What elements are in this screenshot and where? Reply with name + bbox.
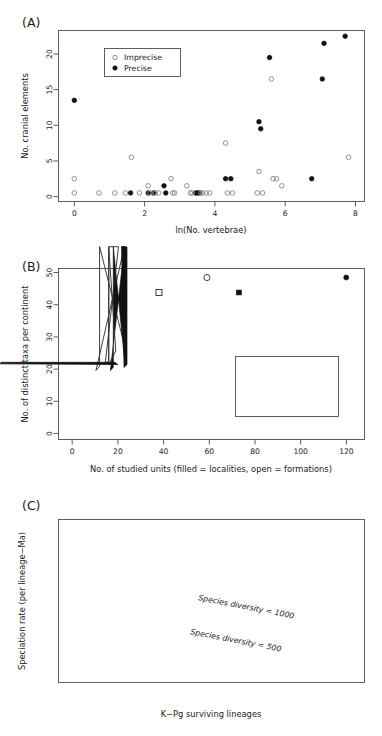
panel-b-xtick-120: 120 bbox=[339, 447, 354, 456]
open-circle-icon bbox=[72, 176, 77, 181]
panel-a-ytick-0: 0 bbox=[45, 194, 54, 199]
open-circle-icon bbox=[223, 141, 228, 146]
panel-a-xtick-6: 6 bbox=[283, 209, 288, 218]
panel-a-legend-label-1: Precise bbox=[124, 64, 152, 73]
open-circle-icon bbox=[346, 155, 351, 160]
panel-b: (B) 0 10 20 30 40 50 No. of distinct tax… bbox=[0, 246, 382, 486]
panel-a-xtick-0: 0 bbox=[72, 209, 77, 218]
open-circle-icon bbox=[230, 191, 235, 196]
panel-b-xtick-60: 60 bbox=[204, 447, 214, 456]
open-circle-icon bbox=[146, 184, 151, 189]
filled-circle-icon bbox=[257, 119, 262, 124]
open-circle-icon bbox=[169, 176, 174, 181]
panel-a-y-axis: 0 5 10 15 20 No. cranial elements bbox=[20, 49, 59, 199]
filled-circle-icon bbox=[229, 176, 234, 181]
filled-circle-icon bbox=[258, 127, 263, 132]
filled-circle-icon bbox=[343, 34, 348, 39]
panel-c-tag: (C) bbox=[22, 498, 40, 513]
panel-c-y-axis: Speciation rate (per lineage−Ma) bbox=[17, 532, 27, 670]
panel-b-xtick-80: 80 bbox=[250, 447, 260, 456]
panel-b-xtick-0: 0 bbox=[70, 447, 75, 456]
panel-a-ytick-10: 10 bbox=[45, 120, 54, 130]
open-circle-icon bbox=[260, 191, 265, 196]
open-circle-icon bbox=[123, 191, 128, 196]
panel-a-ytick-5: 5 bbox=[45, 158, 54, 163]
filled-circle-icon bbox=[344, 275, 349, 280]
open-circle-icon bbox=[72, 191, 77, 196]
panel-b-y-axis-title: No. of distinct taxa per continent bbox=[20, 285, 30, 423]
panel-a-y-axis-title: No. cranial elements bbox=[20, 73, 30, 159]
panel-a-xtick-4: 4 bbox=[212, 209, 217, 218]
open-circle-icon bbox=[137, 191, 142, 196]
open-circle-icon bbox=[112, 191, 117, 196]
curve-label-diversity-1000: Species diversity = 1000 bbox=[198, 593, 295, 620]
panel-b-ytick-40: 40 bbox=[45, 300, 54, 310]
panel-b-ytick-20: 20 bbox=[45, 364, 54, 374]
filled-circle-icon bbox=[128, 191, 133, 196]
open-circle-icon bbox=[204, 274, 210, 280]
panel-c-y-axis-title: Speciation rate (per lineage−Ma) bbox=[17, 532, 27, 670]
filled-triangle-down-icon bbox=[0, 362, 118, 364]
panel-c-annotations: Species diversity = 1000 Species diversi… bbox=[190, 593, 295, 653]
panel-c-x-axis-title: K−Pg surviving lineages bbox=[161, 709, 262, 719]
filled-circle-icon bbox=[113, 66, 117, 70]
open-circle-icon bbox=[185, 184, 190, 189]
panel-a-xtick-2: 2 bbox=[142, 209, 147, 218]
open-circle-icon bbox=[129, 155, 134, 160]
panel-b-y-axis: 0 10 20 30 40 50 No. of distinct taxa pe… bbox=[20, 268, 59, 436]
panel-a-legend: Imprecise Precise bbox=[105, 49, 181, 77]
filled-circle-icon bbox=[267, 55, 272, 60]
panel-b-x-axis-title: No. of studied units (filled = localitie… bbox=[90, 464, 332, 474]
open-circle-icon bbox=[225, 191, 230, 196]
panel-c: (C) Speciation rate (per lineage−Ma) K−P… bbox=[0, 486, 382, 736]
panel-a-legend-label-0: Imprecise bbox=[124, 53, 162, 62]
open-circle-icon bbox=[255, 191, 260, 196]
filled-circle-icon bbox=[163, 191, 168, 196]
curve-label-diversity-500: Species diversity = 500 bbox=[190, 627, 283, 653]
filled-circle-icon bbox=[320, 77, 325, 82]
open-circle-icon bbox=[269, 77, 274, 82]
panel-a-svg: (A) 0 5 10 15 20 No. cranial elements bbox=[0, 0, 382, 246]
open-square-icon bbox=[156, 290, 162, 296]
open-circle-icon bbox=[257, 169, 262, 174]
panel-b-xtick-100: 100 bbox=[293, 447, 308, 456]
panel-b-xtick-40: 40 bbox=[159, 447, 169, 456]
filled-circle-icon bbox=[322, 41, 327, 46]
filled-circle-icon bbox=[72, 98, 77, 103]
open-circle-icon bbox=[97, 191, 102, 196]
panel-a-ytick-15: 15 bbox=[45, 85, 54, 95]
panel-a-x-axis-title: ln(No. vertebrae) bbox=[175, 225, 246, 235]
open-circle-icon bbox=[280, 184, 285, 189]
panel-b-ytick-50: 50 bbox=[45, 268, 54, 278]
panel-b-ytick-30: 30 bbox=[45, 332, 54, 342]
filled-circle-icon bbox=[223, 176, 228, 181]
panel-a: (A) 0 5 10 15 20 No. cranial elements bbox=[0, 0, 382, 246]
panel-c-x-axis: K−Pg surviving lineages bbox=[161, 709, 262, 719]
panel-a-tag: (A) bbox=[22, 15, 40, 30]
panel-a-ytick-20: 20 bbox=[45, 49, 54, 59]
panel-b-ytick-0: 0 bbox=[45, 431, 54, 436]
panel-b-legend bbox=[236, 357, 339, 417]
panel-b-ytick-10: 10 bbox=[45, 396, 54, 406]
filled-circle-icon bbox=[162, 184, 167, 189]
panel-c-svg: (C) Speciation rate (per lineage−Ma) K−P… bbox=[0, 486, 382, 736]
panel-b-svg: (B) 0 10 20 30 40 50 No. of distinct tax… bbox=[0, 246, 382, 486]
filled-square-icon bbox=[237, 290, 242, 295]
figure-three-panel: (A) 0 5 10 15 20 No. cranial elements bbox=[0, 0, 382, 736]
panel-a-xtick-8: 8 bbox=[353, 209, 358, 218]
panel-a-x-axis: 0 2 4 6 8 ln(No. vertebrae) bbox=[72, 202, 358, 236]
panel-b-xtick-20: 20 bbox=[113, 447, 123, 456]
filled-circle-icon bbox=[309, 176, 314, 181]
panel-b-x-axis: 0 20 40 60 80 100 120 No. of studied uni… bbox=[70, 440, 354, 475]
panel-b-tag: (B) bbox=[22, 259, 40, 274]
